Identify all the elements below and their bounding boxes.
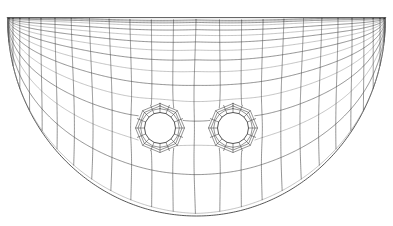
mesh-circumferential-line [183,120,210,121]
left-hole [145,113,176,144]
mesh-radial-line [300,18,304,179]
mesh-circumferential-line [8,18,386,72]
mesh-circumferential-line [8,18,386,175]
domain-boundary [8,18,386,216]
mesh-radial-line [194,19,196,213]
mesh-radial-line [173,148,174,211]
hole-outlines [145,113,249,144]
mesh-radial-line [151,20,152,105]
mesh-figure [0,0,393,226]
domain-outline [8,18,386,216]
mesh-radial-line [109,19,112,191]
mesh-circumferential-line [8,18,386,85]
mesh-radial-line [173,20,174,108]
mesh-radial-line [71,18,74,165]
mesh-circumferential-line [8,18,386,213]
mesh-circumferential-line [8,18,386,50]
right-hole [218,113,249,144]
mesh-radial-line [219,20,220,108]
mesh-radial-line [130,19,132,199]
mesh-grid-lines [8,18,386,213]
mesh-radial-line [219,148,220,211]
mesh-radial-line [281,19,284,191]
mesh-radial-line [89,18,93,179]
mesh-radial-line [241,20,242,105]
mesh-radial-line [241,151,242,207]
mesh-radial-line [261,19,263,199]
mesh-circumferential-line [8,18,386,42]
mesh-radial-line [319,18,322,165]
mesh-canvas [0,0,393,226]
mesh-radial-line [151,151,152,207]
